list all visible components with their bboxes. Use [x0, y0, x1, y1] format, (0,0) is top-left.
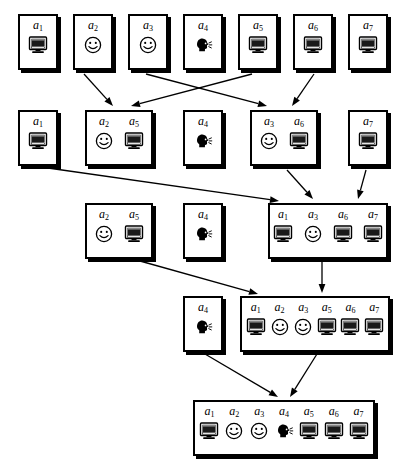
- cluster-member-a5: a5: [243, 19, 273, 66]
- agent-label-a1: a1: [251, 301, 261, 315]
- cluster-a7[interactable]: a7: [348, 14, 388, 70]
- agent-label-a5: a5: [322, 301, 332, 315]
- cluster-member-a2: a2: [89, 115, 119, 162]
- talking-head-icon: [193, 132, 213, 150]
- agent-label-a1: a1: [33, 19, 43, 33]
- monitor-icon: [246, 318, 266, 336]
- talking-head-icon: [193, 225, 213, 243]
- agent-label-a2: a2: [88, 19, 98, 33]
- talking-head-icon: [274, 422, 294, 440]
- agent-label-a3: a3: [264, 115, 274, 129]
- agent-label-a4: a4: [198, 301, 208, 315]
- clusters-layer: a1a2a3a4a5a6a7a1a2a5a4a3a6a7a2a5a4a1a3a6…: [0, 0, 402, 469]
- agent-label-a5: a5: [253, 19, 263, 33]
- cluster-a1[interactable]: a1: [18, 110, 58, 166]
- cluster-a1[interactable]: a1: [18, 14, 58, 70]
- cluster-member-a7: a7: [346, 405, 371, 452]
- monitor-icon: [317, 318, 337, 336]
- agent-label-a4: a4: [198, 19, 208, 33]
- cluster-member-a1: a1: [244, 301, 268, 348]
- cluster-member-a6: a6: [321, 405, 346, 452]
- agent-label-a2: a2: [99, 208, 109, 222]
- cluster-member-a4: a4: [188, 301, 218, 348]
- monitor-icon: [124, 225, 144, 243]
- cluster-member-a7: a7: [362, 301, 386, 348]
- agent-label-a2: a2: [275, 301, 285, 315]
- cluster-member-a6: a6: [328, 208, 358, 255]
- cluster-a1-a2-a3-a5-a6-a7[interactable]: a1a2a3a5a6a7: [240, 296, 390, 352]
- agent-label-a3: a3: [143, 19, 153, 33]
- cluster-member-a4: a4: [188, 115, 218, 162]
- cluster-member-a4: a4: [188, 208, 218, 255]
- agent-label-a3: a3: [254, 405, 264, 419]
- cluster-member-a3: a3: [254, 115, 284, 162]
- agent-label-a4: a4: [198, 208, 208, 222]
- smiley-icon: [94, 132, 114, 150]
- clustering-diagram: a1a2a3a4a5a6a7a1a2a5a4a3a6a7a2a5a4a1a3a6…: [0, 0, 402, 469]
- smiley-icon: [259, 132, 279, 150]
- cluster-a4[interactable]: a4: [183, 203, 223, 259]
- agent-label-a2: a2: [99, 115, 109, 129]
- cluster-a4[interactable]: a4: [183, 110, 223, 166]
- smiley-icon: [138, 36, 158, 54]
- agent-label-a6: a6: [329, 405, 339, 419]
- cluster-a2-a5[interactable]: a2a5: [85, 203, 153, 259]
- cluster-a3-a6[interactable]: a3a6: [250, 110, 318, 166]
- cluster-member-a6: a6: [298, 19, 328, 66]
- monitor-icon: [124, 132, 144, 150]
- agent-label-a7: a7: [363, 115, 373, 129]
- smiley-icon: [303, 225, 323, 243]
- monitor-icon: [364, 318, 384, 336]
- cluster-member-a5: a5: [119, 208, 149, 255]
- cluster-member-a3: a3: [298, 208, 328, 255]
- cluster-member-a3: a3: [133, 19, 163, 66]
- agent-label-a1: a1: [33, 115, 43, 129]
- agent-label-a3: a3: [308, 208, 318, 222]
- agent-label-a7: a7: [369, 301, 379, 315]
- smiley-icon: [83, 36, 103, 54]
- monitor-icon: [273, 225, 293, 243]
- smiley-icon: [249, 422, 269, 440]
- monitor-icon: [299, 422, 319, 440]
- cluster-member-a7: a7: [353, 115, 383, 162]
- monitor-icon: [363, 225, 383, 243]
- cluster-member-a1: a1: [197, 405, 222, 452]
- monitor-icon: [248, 36, 268, 54]
- agent-label-a4: a4: [198, 115, 208, 129]
- cluster-a6[interactable]: a6: [293, 14, 333, 70]
- agent-label-a6: a6: [308, 19, 318, 33]
- cluster-member-a1: a1: [23, 115, 53, 162]
- agent-label-a5: a5: [129, 115, 139, 129]
- agent-label-a7: a7: [354, 405, 364, 419]
- monitor-icon: [289, 132, 309, 150]
- cluster-all[interactable]: a1a2a3a4a5a6a7: [193, 400, 375, 456]
- cluster-a1-a3-a6-a7[interactable]: a1a3a6a7: [268, 203, 388, 259]
- cluster-a7[interactable]: a7: [348, 110, 388, 166]
- monitor-icon: [303, 36, 323, 54]
- cluster-member-a1: a1: [23, 19, 53, 66]
- cluster-member-a4: a4: [272, 405, 297, 452]
- agent-label-a5: a5: [304, 405, 314, 419]
- cluster-member-a2: a2: [89, 208, 119, 255]
- cluster-a5[interactable]: a5: [238, 14, 278, 70]
- agent-label-a7: a7: [368, 208, 378, 222]
- monitor-icon: [28, 36, 48, 54]
- cluster-member-a7: a7: [358, 208, 388, 255]
- monitor-icon: [28, 132, 48, 150]
- talking-head-icon: [193, 36, 213, 54]
- agent-label-a2: a2: [229, 405, 239, 419]
- monitor-icon: [349, 422, 369, 440]
- cluster-a4[interactable]: a4: [183, 14, 223, 70]
- cluster-member-a6: a6: [339, 301, 363, 348]
- cluster-member-a5: a5: [315, 301, 339, 348]
- monitor-icon: [358, 36, 378, 54]
- smiley-icon: [224, 422, 244, 440]
- agent-label-a6: a6: [338, 208, 348, 222]
- smiley-icon: [293, 318, 313, 336]
- cluster-a2-a5[interactable]: a2a5: [85, 110, 153, 166]
- cluster-a3[interactable]: a3: [128, 14, 168, 70]
- cluster-a4[interactable]: a4: [183, 296, 223, 352]
- cluster-a2[interactable]: a2: [73, 14, 113, 70]
- smiley-icon: [270, 318, 290, 336]
- monitor-icon: [324, 422, 344, 440]
